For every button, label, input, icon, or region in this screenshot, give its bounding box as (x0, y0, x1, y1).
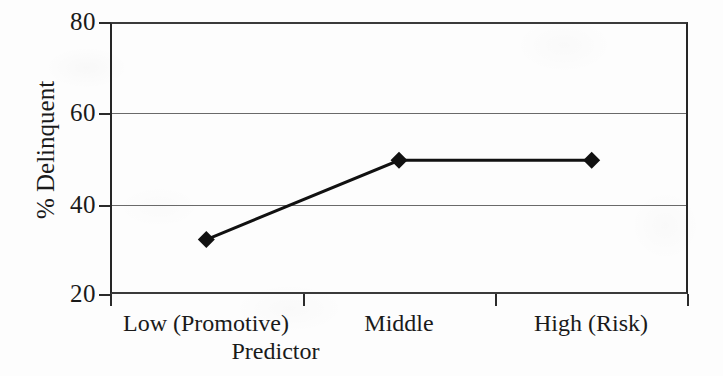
x-axis-title: Predictor (0, 338, 723, 364)
plot-area (110, 22, 688, 294)
x-tick-mark-0 (110, 294, 112, 306)
x-tick-mark-1 (303, 294, 305, 306)
x-tick-mark-2 (495, 294, 497, 306)
x-tick-label-middle: Middle (299, 309, 499, 338)
y-tick-label-20: 20 (58, 281, 96, 306)
y-tick-label-60: 60 (58, 100, 96, 125)
y-tick-label-40: 40 (58, 192, 96, 217)
y-tick-label-80: 80 (58, 9, 96, 34)
y-tick-mark-40 (99, 205, 110, 207)
x-axis-title-text: Predictor (232, 338, 320, 364)
y-tick-mark-60 (99, 113, 110, 115)
chart-figure: 80 60 40 20 Low (Promotive) Middle High … (0, 0, 723, 376)
x-tick-label-low: Low (Promotive) (106, 309, 306, 338)
x-tick-label-high: High (Risk) (491, 309, 691, 338)
y-tick-mark-80 (99, 22, 110, 24)
y-tick-mark-20 (99, 294, 110, 296)
y-axis-title: % Delinquent (33, 81, 58, 219)
x-tick-mark-3 (687, 294, 689, 306)
